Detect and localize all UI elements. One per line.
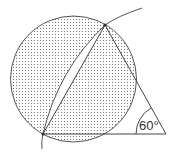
vertex-apex xyxy=(103,23,106,26)
geometry-diagram: 60° xyxy=(0,0,173,159)
vertex-base-left xyxy=(41,132,44,135)
diagram-canvas: 60° xyxy=(0,0,173,159)
angle-label: 60° xyxy=(139,118,159,133)
